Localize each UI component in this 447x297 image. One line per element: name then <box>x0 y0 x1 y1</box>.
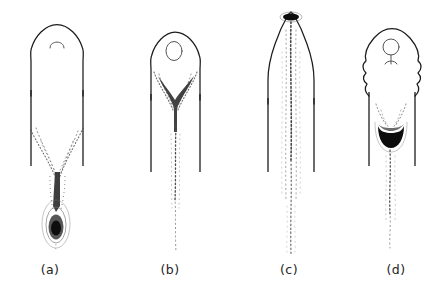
panel-a-terminus-core <box>51 221 61 236</box>
panel-b-caption: (b) <box>161 262 180 277</box>
figure-background <box>0 0 447 297</box>
panel-a-caption: (a) <box>41 262 60 277</box>
panel-c-caption: (c) <box>280 262 298 277</box>
figure-canvas: (a) (b) <box>0 0 447 297</box>
panel-c-apex-blob <box>283 14 299 21</box>
panel-d-caption: (d) <box>387 262 406 277</box>
nozzle-spray-figure: (a) (b) <box>0 0 447 297</box>
